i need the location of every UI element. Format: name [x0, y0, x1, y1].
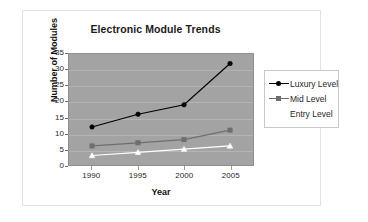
- y-tick-label: 5: [38, 145, 64, 154]
- y-tick-label: 0: [38, 161, 64, 170]
- x-tick-mark: [184, 166, 185, 170]
- x-tick-mark: [91, 166, 92, 170]
- legend-marker: [276, 81, 281, 86]
- legend-marker: [276, 96, 281, 101]
- x-tick-label: 2000: [164, 171, 204, 180]
- legend-marker: [276, 111, 281, 116]
- legend-label: Mid Level: [290, 94, 326, 104]
- chart-legend: Luxury LevelMid LevelEntry Level: [264, 70, 339, 128]
- data-point-marker: [90, 144, 94, 148]
- series-line: [92, 146, 230, 156]
- x-tick-label: 1995: [118, 171, 158, 180]
- x-tick-mark: [138, 166, 139, 170]
- y-tick-label: 20: [38, 96, 64, 105]
- data-point-marker: [182, 103, 187, 108]
- x-tick-label: 2005: [211, 171, 251, 180]
- series-line: [92, 130, 230, 146]
- x-tick-label: 1990: [71, 171, 111, 180]
- data-series-layer: [69, 54, 253, 165]
- data-point-marker: [228, 128, 232, 132]
- y-tick-label: 25: [38, 80, 64, 89]
- legend-item-mid-level[interactable]: Mid Level: [268, 91, 335, 106]
- plot-area: [68, 53, 254, 166]
- data-point-marker: [90, 125, 95, 130]
- legend-item-luxury-level[interactable]: Luxury Level: [268, 76, 335, 91]
- legend-key-icon: [268, 108, 290, 120]
- chart-container: Electronic Module Trends Number of Modul…: [22, 10, 321, 206]
- legend-label: Luxury Level: [290, 79, 338, 89]
- data-point-marker: [182, 137, 186, 141]
- legend-item-entry-level[interactable]: Entry Level: [268, 106, 335, 121]
- legend-key-icon: [268, 78, 290, 90]
- legend-key-icon: [268, 93, 290, 105]
- legend-label: Entry Level: [290, 109, 333, 119]
- x-tick-mark: [231, 166, 232, 170]
- y-tick-mark: [65, 166, 68, 167]
- data-point-marker: [136, 112, 141, 117]
- y-tick-label: 35: [38, 48, 64, 57]
- x-axis-label: Year: [68, 187, 254, 197]
- series-line: [92, 64, 230, 127]
- data-point-marker: [228, 61, 233, 66]
- chart-title: Electronic Module Trends: [23, 23, 288, 35]
- y-tick-label: 15: [38, 113, 64, 122]
- data-point-marker: [136, 141, 140, 145]
- y-tick-label: 10: [38, 129, 64, 138]
- y-tick-label: 30: [38, 64, 64, 73]
